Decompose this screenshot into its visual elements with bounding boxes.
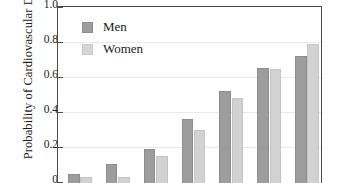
legend-item-women: Women [82,38,143,60]
bar-women-group-1 [80,177,92,183]
bar-group [172,7,210,183]
bar-group [285,7,322,183]
bar-women-group-7 [307,44,319,183]
chart-figure: Probability of Cardiovascular Disease 1.… [0,0,337,183]
y-tick-label-0.4: 0.4 [32,103,58,115]
y-tick-label-0: 0 [32,173,58,183]
y-tick-label-1.0: 1.0 [32,0,58,10]
bar-women-group-3 [156,156,168,183]
chart-legend: MenWomen [82,16,143,60]
bar-men-group-4 [182,119,194,183]
y-tick-label-0.8: 0.8 [32,33,58,45]
bar-men-group-7 [295,56,307,183]
bar-women-group-6 [270,69,282,183]
bar-group [209,7,247,183]
legend-label: Men [103,19,127,35]
bar-men-group-5 [219,91,231,183]
y-tick-label-0.6: 0.6 [32,68,58,80]
legend-label: Women [103,41,143,57]
bar-men-group-6 [257,68,269,183]
men-swatch-icon [82,22,93,33]
bar-group [247,7,285,183]
y-tick-label-0.2: 0.2 [32,138,58,150]
bar-men-group-2 [106,164,118,183]
bar-women-group-2 [118,177,130,183]
bar-women-group-5 [232,98,244,183]
bar-men-group-1 [68,174,80,183]
bar-women-group-4 [194,130,206,183]
legend-item-men: Men [82,16,143,38]
bar-men-group-3 [144,149,156,183]
women-swatch-icon [82,44,93,55]
